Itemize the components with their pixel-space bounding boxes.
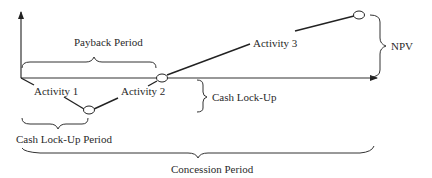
activity-3-label: Activity 3 <box>253 37 298 49</box>
cash-flow-diagram: Payback Period Activity 1 Activity 2 Act… <box>0 0 432 178</box>
payback-period-brace <box>22 57 156 68</box>
cash-lock-up-brace <box>197 80 207 112</box>
payback-period-label: Payback Period <box>74 36 143 48</box>
cash-lock-up-period-label: Cash Lock-Up Period <box>16 133 112 145</box>
node-end-value <box>354 11 365 19</box>
npv-brace <box>370 15 386 77</box>
cash-lock-up-period-brace <box>22 118 88 129</box>
concession-period-label: Concession Period <box>171 163 254 175</box>
activity-1-label: Activity 1 <box>34 85 78 97</box>
concession-period-brace <box>22 146 374 158</box>
npv-label: NPV <box>391 40 413 52</box>
cash-lock-up-label: Cash Lock-Up <box>212 91 277 103</box>
node-breakeven <box>157 74 168 82</box>
activity-2-label: Activity 2 <box>121 85 165 97</box>
node-cash-low <box>84 106 95 114</box>
